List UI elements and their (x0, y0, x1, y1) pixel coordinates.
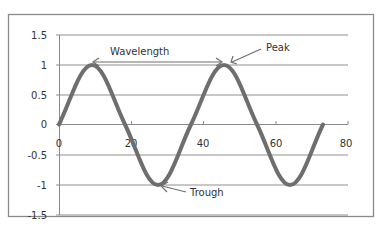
x-axis-ticks (132, 121, 349, 125)
y-tick-label: 0 (41, 119, 47, 130)
x-tick-label: 80 (340, 138, 353, 149)
y-tick-label: 1 (41, 60, 47, 71)
peak-arrow (231, 49, 261, 64)
y-tick-label: -1 (37, 180, 47, 191)
trough-arrow (161, 182, 186, 192)
x-tick-label: 40 (197, 138, 210, 149)
y-tick-label: 1.5 (31, 30, 47, 41)
wave-diagram: 1.5 1 0.5 0 -0.5 -1 -1.5 0 20 40 60 80 W… (0, 0, 385, 251)
wavelength-label: Wavelength (110, 46, 169, 57)
x-tick-labels: 0 20 40 60 80 (56, 138, 353, 149)
x-tick-label: 0 (56, 138, 62, 149)
y-tick-label: -1.5 (27, 210, 47, 221)
y-tick-labels: 1.5 1 0.5 0 -0.5 -1 -1.5 (27, 30, 47, 221)
peak-label: Peak (266, 42, 290, 53)
x-tick-label: 60 (270, 138, 283, 149)
y-tick-label: -0.5 (27, 150, 47, 161)
trough-label: Trough (189, 187, 224, 198)
y-tick-label: 0.5 (31, 90, 47, 101)
